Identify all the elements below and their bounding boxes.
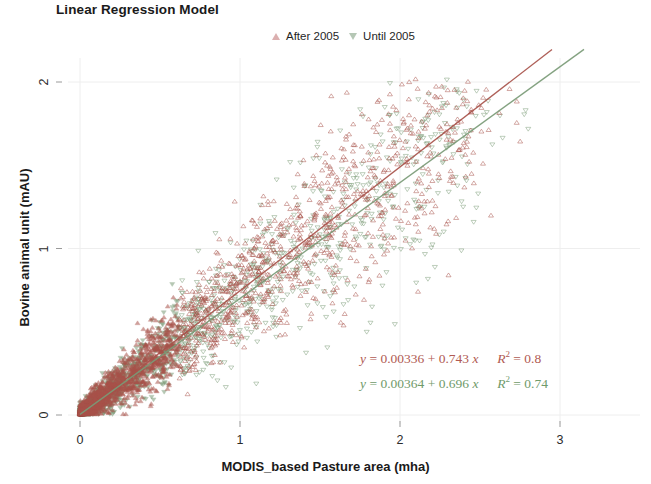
eq1-plus: + xyxy=(428,375,436,390)
eq1-r2value: 0.74 xyxy=(524,375,548,390)
x-tick-label-0: 0 xyxy=(77,433,84,447)
legend-item-until-2005[interactable]: Until 2005 xyxy=(349,30,415,42)
eq1-slope: 0.696 xyxy=(439,375,469,390)
eq0-r2value: 0.8 xyxy=(524,351,541,366)
eq0-intercept: 0.00336 xyxy=(380,351,424,366)
equation-annotations: y = 0.00336 + 0.743 x R2 = 0.8 y = 0.003… xyxy=(360,344,548,393)
y-tick-label-1: 1 xyxy=(37,245,51,252)
eq0-plus: + xyxy=(428,351,436,366)
eq0-y: y xyxy=(360,351,366,366)
eq1-eq1: = xyxy=(369,375,377,390)
legend-item-after-2005[interactable]: After 2005 xyxy=(272,30,339,42)
y-tick-label-2: 2 xyxy=(37,79,51,86)
legend-label-after-2005: After 2005 xyxy=(286,30,339,42)
plot-canvas xyxy=(0,0,651,484)
eq1-r-exp: 2 xyxy=(505,374,510,384)
eq1-x: x xyxy=(472,375,478,390)
x-tick-label-1: 1 xyxy=(237,433,244,447)
linear-regression-scatter-chart: Linear Regression Model After 2005 Until… xyxy=(0,0,651,484)
eq1-eq2: = xyxy=(513,375,521,390)
eq0-eq1: = xyxy=(369,351,377,366)
eq0-r-exp: 2 xyxy=(505,349,510,359)
chart-title: Linear Regression Model xyxy=(56,2,219,17)
eq1-y: y xyxy=(360,375,366,390)
equation-after-2005: y = 0.00336 + 0.743 x R2 = 0.8 xyxy=(360,344,548,369)
eq0-slope: 0.743 xyxy=(439,351,469,366)
eq1-intercept: 0.00364 xyxy=(380,375,424,390)
triangle-up-icon xyxy=(272,32,281,41)
x-tick-label-2: 2 xyxy=(397,433,404,447)
equation-until-2005: y = 0.00364 + 0.696 x R2 = 0.74 xyxy=(360,369,548,394)
x-axis-title: MODIS_based Pasture area (mha) xyxy=(0,459,651,474)
eq0-eq2: = xyxy=(513,351,521,366)
y-tick-label-0: 0 xyxy=(37,412,51,419)
x-tick-label-3: 3 xyxy=(557,433,564,447)
legend-label-until-2005: Until 2005 xyxy=(363,30,415,42)
eq0-x: x xyxy=(472,351,478,366)
chart-legend: After 2005 Until 2005 xyxy=(272,30,415,42)
y-axis-title: Bovine animal unit (mAU) xyxy=(17,138,32,358)
triangle-down-icon xyxy=(349,32,358,41)
